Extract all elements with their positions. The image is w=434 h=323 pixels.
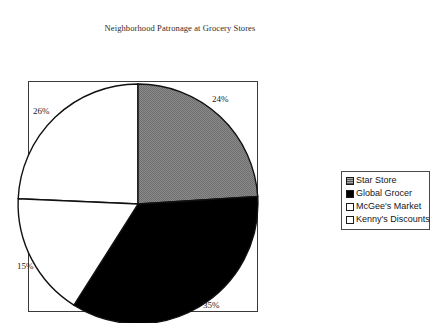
slice-label-star-store: 24% — [212, 94, 229, 104]
legend-label-star-store: Star Store — [356, 175, 397, 186]
legend-item-star-store: Star Store — [346, 174, 426, 187]
legend: Star Store Global Grocer McGee's Market … — [341, 171, 430, 230]
slice-label-mcgees-market: 15% — [17, 261, 34, 271]
legend-swatch-star-store-icon — [346, 177, 354, 185]
slice-label-kenny-discounts: 26% — [33, 106, 50, 116]
legend-item-global-grocer: Global Grocer — [346, 187, 426, 200]
legend-item-mcgees-market: McGee's Market — [346, 200, 426, 213]
legend-label-mcgees-market: McGee's Market — [356, 201, 421, 212]
legend-label-global-grocer: Global Grocer — [356, 188, 412, 199]
legend-swatch-global-grocer-icon — [346, 190, 354, 198]
legend-swatch-mcgees-market-icon — [346, 203, 354, 211]
chart-title: Neighborhood Patronage at Grocery Stores — [0, 23, 360, 33]
legend-label-kennys-discounts: Kenny's Discounts — [356, 214, 430, 225]
plot-area — [28, 81, 258, 312]
legend-item-kennys-discounts: Kenny's Discounts — [346, 213, 426, 226]
legend-swatch-kennys-discounts-icon — [346, 216, 354, 224]
slice-label-global-grocer: 35% — [203, 300, 220, 310]
